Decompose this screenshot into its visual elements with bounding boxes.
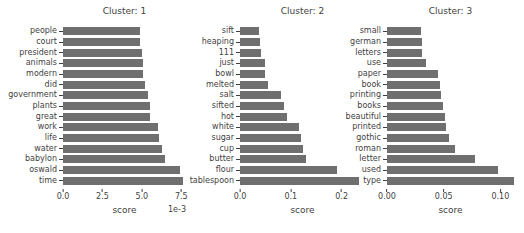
x-tick-label: 5.0 [135, 193, 148, 201]
bar-track [387, 177, 514, 185]
y-tick-label-small: small [324, 27, 381, 35]
y-tick-label-president: president [0, 49, 57, 57]
x-axis: 0.000.050.10 [387, 189, 514, 205]
y-tick-label-great: great [0, 113, 57, 121]
x-tick-label: 0.0 [234, 193, 247, 201]
bar-letter [387, 155, 475, 163]
y-tick-label-book: book [324, 81, 381, 89]
bar-track [387, 59, 514, 67]
bar-roman [387, 145, 455, 153]
x-tick-0.1: 0.1 [284, 189, 297, 201]
y-tick-label-modern: modern [0, 70, 57, 78]
bar-row: beautiful [324, 111, 514, 122]
x-tick-0.0: 0.0 [234, 189, 247, 201]
y-tick-label-babylon: babylon [0, 155, 57, 163]
cluster-3-chart: Cluster: 3 smallgermanlettersusepaperboo… [324, 0, 514, 233]
x-tick-5.0: 5.0 [135, 189, 148, 201]
y-tick-label-bowl: bowl [177, 70, 234, 78]
bar-life [63, 134, 159, 142]
y-tick-label-did: did [0, 81, 57, 89]
y-tick-label-oswald: oswald [0, 166, 57, 174]
y-tick-label-flour: flour [177, 166, 234, 174]
bar-cup [240, 145, 303, 153]
bar-track [63, 70, 186, 78]
bar-butter [240, 155, 306, 163]
y-tick-label-paper: paper [324, 70, 381, 78]
bar-row: modern [0, 69, 186, 80]
y-tick-label-just: just [177, 59, 234, 67]
bar-flour [240, 166, 337, 174]
bar-use [387, 59, 426, 67]
x-tick-label: 0.05 [435, 193, 453, 201]
y-tick-label-government: government [0, 91, 57, 99]
bar-row: roman [324, 143, 514, 154]
y-tick-label-type: type [324, 177, 381, 185]
x-tick-label: 0.00 [378, 193, 396, 201]
y-tick-label-use: use [324, 59, 381, 67]
y-tick-label-white: white [177, 123, 234, 131]
bar-track [63, 123, 186, 131]
y-tick-label-salt: salt [177, 91, 234, 99]
y-tick-label-cup: cup [177, 145, 234, 153]
bar-salt [240, 91, 281, 99]
bar-track [387, 49, 514, 57]
bar-row: life [0, 133, 186, 144]
bar-track [387, 145, 514, 153]
bar-did [63, 81, 145, 89]
bar-time [63, 177, 183, 185]
y-tick-label-melted: melted [177, 81, 234, 89]
bar-row: paper [324, 69, 514, 80]
bar-track [63, 49, 186, 57]
x-axis: 0.02.55.07.5 [63, 189, 186, 205]
bar-row: use [324, 58, 514, 69]
bar-track [63, 102, 186, 110]
bars-area: smallgermanlettersusepaperbookprintingbo… [324, 26, 514, 186]
bar-row: book [324, 79, 514, 90]
y-tick-label-roman: roman [324, 145, 381, 153]
bar-bowl [240, 70, 265, 78]
bar-people [63, 27, 140, 35]
y-tick-label-german: german [324, 38, 381, 46]
figure-canvas: Cluster: 1 peoplecourtpresidentanimalsmo… [0, 0, 524, 233]
bar-animals [63, 59, 143, 67]
bar-row: oswald [0, 165, 186, 176]
bar-printed [387, 123, 446, 131]
bar-president [63, 49, 142, 57]
bar-track [63, 145, 186, 153]
y-tick-label-people: people [0, 27, 57, 35]
y-tick-label-letters: letters [324, 49, 381, 57]
bar-letters [387, 49, 422, 57]
bar-track [387, 91, 514, 99]
x-tick-label: 0.0 [57, 193, 70, 201]
y-tick-label-used: used [324, 166, 381, 174]
bar-track [63, 134, 186, 142]
y-tick-label-butter: butter [177, 155, 234, 163]
y-tick-label-sugar: sugar [177, 134, 234, 142]
y-tick-label-plants: plants [0, 102, 57, 110]
bar-track [63, 91, 186, 99]
y-tick-label-work: work [0, 123, 57, 131]
bar-government [63, 91, 148, 99]
bar-used [387, 166, 498, 174]
bar-hot [240, 113, 287, 121]
bar-melted [240, 81, 268, 89]
y-tick-label-letter: letter [324, 155, 381, 163]
y-tick-label-111: 111 [177, 49, 234, 57]
bar-row: used [324, 165, 514, 176]
bar-court [63, 38, 140, 46]
bar-track [63, 59, 186, 67]
bar-great [63, 113, 150, 121]
y-tick-label-sifted: sifted [177, 102, 234, 110]
bar-row: work [0, 122, 186, 133]
bar-row: letters [324, 47, 514, 58]
y-tick-label-books: books [324, 102, 381, 110]
y-tick-label-time: time [0, 177, 57, 185]
chart-title: Cluster: 3 [387, 6, 514, 17]
y-tick-label-life: life [0, 134, 57, 142]
bar-track [387, 123, 514, 131]
x-tick-0.10: 0.10 [491, 189, 509, 201]
bar-white [240, 123, 299, 131]
y-tick-label-water: water [0, 145, 57, 153]
bar-oswald [63, 166, 180, 174]
chart-title: Cluster: 1 [63, 6, 186, 17]
